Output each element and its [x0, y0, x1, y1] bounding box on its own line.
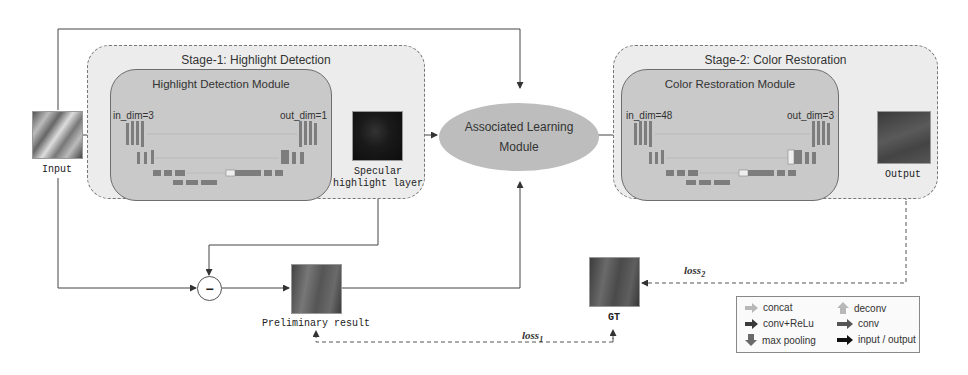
stage1-title: Stage-1: Highlight Detection [88, 53, 424, 67]
arrow-right-icon [745, 319, 758, 329]
arrow-right-icon [745, 303, 758, 313]
gt-image [589, 257, 640, 307]
arrow-up-icon [837, 302, 849, 314]
arrow-right-icon [837, 319, 853, 329]
gt-label: GT [589, 312, 639, 323]
input-label: Input [32, 164, 82, 175]
output-label: Output [873, 169, 933, 180]
preliminary-label: Preliminary result [260, 318, 372, 329]
ellipse-line1: Associated Learning [465, 117, 574, 137]
input-image [32, 111, 83, 159]
legend-concat: concat [745, 302, 792, 313]
ellipse-line2: Module [499, 137, 538, 157]
legend-input-output: input / output [837, 334, 916, 345]
legend-conv: conv [837, 318, 879, 329]
associated-learning-module: Associated Learning Module [439, 103, 599, 171]
specular-highlight-image [352, 111, 403, 161]
output-image [877, 111, 931, 164]
specular-label-line1: Specular [330, 166, 426, 178]
legend: concat deconv conv+ReLu conv max pooling… [736, 296, 920, 353]
legend-conv-relu: conv+ReLu [745, 318, 814, 329]
loss1-label: loss1 [522, 329, 543, 344]
arrow-down-icon [745, 334, 757, 346]
unet-blocks-2 [622, 70, 838, 200]
specular-label-line2: highlight layer [330, 178, 426, 190]
subtract-node: − [197, 276, 222, 301]
legend-max-pooling: max pooling [745, 334, 816, 346]
loss2-label: loss2 [684, 264, 705, 279]
stage2-title: Stage-2: Color Restoration [614, 53, 937, 67]
preliminary-result-image [291, 264, 342, 314]
arrow-right-icon [837, 335, 853, 345]
unet-blocks-1 [111, 70, 331, 200]
highlight-detection-module: Highlight Detection Module in_dim=3 out_… [110, 69, 332, 201]
legend-deconv: deconv [837, 302, 886, 314]
color-restoration-module: Color Restoration Module in_dim=48 out_d… [621, 69, 839, 201]
minus-icon: − [205, 281, 213, 297]
specular-label: Specular highlight layer [330, 166, 426, 190]
